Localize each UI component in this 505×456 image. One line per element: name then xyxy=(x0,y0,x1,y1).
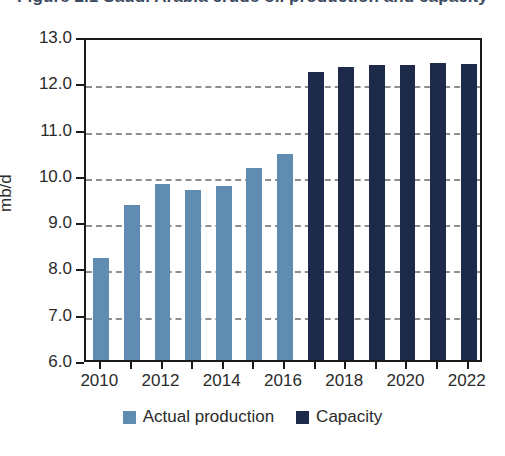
y-axis-tick-mark xyxy=(76,316,84,318)
y-axis-tick-mark xyxy=(76,269,84,271)
bar[interactable] xyxy=(155,184,171,360)
y-axis-tick-label: 7.0 xyxy=(8,306,72,326)
x-axis-tick-mark xyxy=(467,362,469,369)
x-axis-tick-mark xyxy=(191,362,193,369)
chart-figure: Figure 2.1 Saudi Arabia crude oil produc… xyxy=(0,0,505,456)
y-axis-tick-mark xyxy=(76,362,84,364)
x-axis: 2010201220142016201820202022 xyxy=(84,362,482,402)
bar-series-container xyxy=(86,40,480,360)
x-axis-tick-mark xyxy=(283,362,285,369)
x-axis-tick-mark xyxy=(375,362,377,369)
x-axis-tick-label: 2014 xyxy=(203,371,241,391)
legend-item[interactable]: Capacity xyxy=(296,407,382,427)
legend-label: Capacity xyxy=(316,407,382,427)
x-axis-tick-mark xyxy=(130,362,132,369)
y-axis-tick-mark xyxy=(76,38,84,40)
y-axis-tick-label: 8.0 xyxy=(8,259,72,279)
x-axis-tick-mark xyxy=(99,362,101,369)
y-axis-tick-label: 6.0 xyxy=(8,352,72,372)
bar[interactable] xyxy=(93,258,109,360)
x-axis-tick-mark xyxy=(436,362,438,369)
bar[interactable] xyxy=(400,65,416,360)
bar[interactable] xyxy=(430,63,446,360)
x-axis-tick-label: 2020 xyxy=(387,371,425,391)
y-axis-tick-label: 9.0 xyxy=(8,213,72,233)
y-axis: 13.012.011.010.09.08.07.06.0 xyxy=(0,0,84,456)
bar[interactable] xyxy=(246,168,262,360)
chart-legend: Actual productionCapacity xyxy=(0,407,505,427)
y-axis-tick-label: 11.0 xyxy=(8,121,72,141)
bar[interactable] xyxy=(461,64,477,360)
bar[interactable] xyxy=(338,67,354,360)
y-axis-tick-mark xyxy=(76,131,84,133)
x-axis-tick-mark xyxy=(405,362,407,369)
x-axis-tick-mark xyxy=(344,362,346,369)
x-axis-tick-label: 2022 xyxy=(448,371,486,391)
bar[interactable] xyxy=(277,154,293,360)
legend-swatch-icon xyxy=(123,411,136,424)
x-axis-tick-label: 2016 xyxy=(264,371,302,391)
x-axis-tick-label: 2018 xyxy=(325,371,363,391)
plot-area xyxy=(84,38,482,362)
y-axis-tick-label: 12.0 xyxy=(8,74,72,94)
bar[interactable] xyxy=(216,186,232,360)
legend-swatch-icon xyxy=(296,411,309,424)
x-axis-tick-mark xyxy=(252,362,254,369)
legend-label: Actual production xyxy=(143,407,274,427)
x-axis-tick-label: 2012 xyxy=(142,371,180,391)
x-axis-tick-mark xyxy=(222,362,224,369)
x-axis-tick-label: 2010 xyxy=(80,371,118,391)
bar[interactable] xyxy=(369,65,385,360)
x-axis-tick-mark xyxy=(161,362,163,369)
y-axis-tick-mark xyxy=(76,84,84,86)
legend-item[interactable]: Actual production xyxy=(123,407,274,427)
bar[interactable] xyxy=(185,190,201,360)
y-axis-tick-label: 13.0 xyxy=(8,28,72,48)
y-axis-tick-label: 10.0 xyxy=(8,167,72,187)
bar[interactable] xyxy=(124,205,140,360)
x-axis-tick-mark xyxy=(314,362,316,369)
y-axis-tick-mark xyxy=(76,177,84,179)
y-axis-tick-mark xyxy=(76,223,84,225)
bar[interactable] xyxy=(308,72,324,360)
